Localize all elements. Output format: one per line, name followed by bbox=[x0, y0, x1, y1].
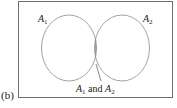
venn-diagram: A1 A2 A1 and A2 (b) bbox=[0, 0, 177, 108]
panel-label: (b) bbox=[1, 89, 14, 102]
